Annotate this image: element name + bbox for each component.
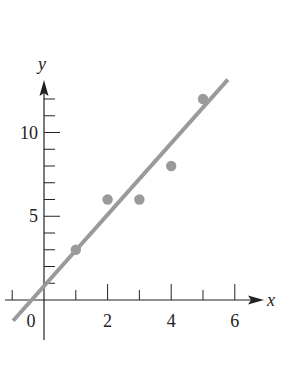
axes [5,80,264,340]
y-axis-label: y [36,54,46,74]
x-tick-label: 0 [27,311,36,331]
data-point [166,161,176,171]
data-point [198,94,208,104]
scatter-chart: 0246510 x y [0,0,288,366]
data-point [102,194,112,204]
x-tick-label: 2 [103,311,112,331]
y-tick-label: 5 [29,206,38,226]
y-tick-label: 10 [20,123,38,143]
data-point [134,194,144,204]
x-axis-label: x [266,290,275,310]
data-point [71,245,81,255]
x-tick-label: 6 [230,311,239,331]
x-tick-label: 4 [167,311,176,331]
